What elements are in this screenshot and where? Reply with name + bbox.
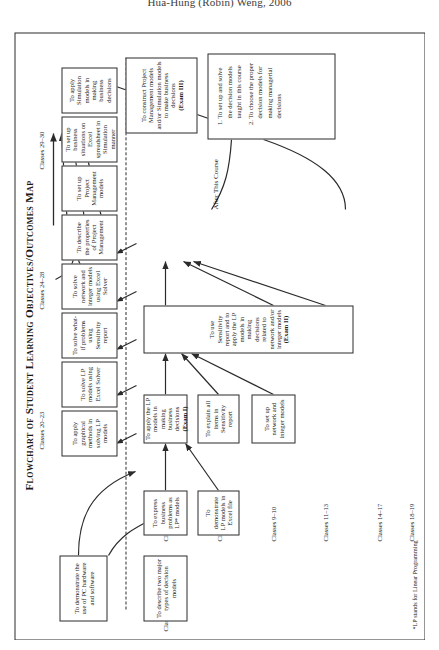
box-text: To apply the LP models in making busines… xyxy=(143,397,188,440)
box-construct-pm-simulation-exam-3: To construct Project Management models a… xyxy=(125,57,197,133)
box-solve-network-integer-solver: To solve network and integer models usin… xyxy=(61,263,117,309)
box-text: To apply Simulation models in making bus… xyxy=(67,70,112,110)
box-text: To solve LP models using Excel Solver xyxy=(78,364,100,404)
row-label-classes-20-23: Classes 20–23 xyxy=(37,411,44,449)
box-text: To set up Project Management models xyxy=(74,168,104,208)
row-label-classes-11-13: Classes 11–13 xyxy=(321,503,328,541)
row-label-classes-14-17: Classes 14–17 xyxy=(375,503,382,541)
flowchart-canvas: Flowchart of Student Learning Objectives… xyxy=(15,33,424,639)
box-text: To solve network and integer models usin… xyxy=(70,266,107,306)
box-apply-lp-exam-1: To apply the LP models in making busines… xyxy=(143,394,187,443)
box-describe-two-models: To describe two major types of decision … xyxy=(143,555,187,621)
box-text: To describe two major types of decision … xyxy=(154,558,176,618)
outcomes-list: To set up and solve the decision models … xyxy=(214,62,283,132)
box-setup-network-integer: To set up network and integer models xyxy=(251,394,295,443)
box-solve-what-if-problems: To solve what-if problems using Sensitiv… xyxy=(61,312,117,358)
box-text: To demonstrate LP models in Excel file xyxy=(203,493,233,532)
box-express-lp-models: To express business problems as LP* mode… xyxy=(143,490,187,535)
box-explain-sensitivity-report: To explain all items in Sensitivity repo… xyxy=(197,394,239,443)
box-text: To express business problems as LP* mode… xyxy=(150,493,180,532)
box-solve-lp-excel-solver: To solve LP models using Excel Solver xyxy=(61,361,117,407)
box-text: To solve what-if problems using Sensitiv… xyxy=(70,315,107,355)
box-text: To describe the properties of Project Ma… xyxy=(74,217,104,257)
section-divider xyxy=(125,57,126,609)
rotated-page-wrapper: Flowchart of Student Learning Objectives… xyxy=(14,32,425,640)
page-title: Flowchart of Student Learning Objectives… xyxy=(22,32,34,639)
flowchart-sheet: Flowchart of Student Learning Objectives… xyxy=(14,32,425,640)
box-use-sensitivity-exam-2: To use Sensitivity report and to apply t… xyxy=(143,305,353,353)
box-text: To set up network and integer models xyxy=(262,397,284,440)
box-apply-simulation-models: To apply Simulation models in making bus… xyxy=(61,67,117,113)
outcome-item: To choose the proper decision models for… xyxy=(245,62,283,118)
row-label-classes-24-28: Classes 24–28 xyxy=(37,271,44,309)
outcome-item: To set up and solve the decision models … xyxy=(214,62,243,118)
box-text: To apply graphical methods in solving LP… xyxy=(70,413,107,453)
box-text: To construct Project Management models a… xyxy=(139,60,184,130)
row-label-classes-18-19: Classes 18–19 xyxy=(407,503,414,541)
box-setup-pm-models: To set up Project Management models xyxy=(61,165,117,211)
row-label-classes-29-30: Classes 29–30 xyxy=(37,131,44,169)
box-apply-graphical-methods: To apply graphical methods in solving LP… xyxy=(61,410,117,456)
box-demonstrate-lp-excel: To demonstrate LP models in Excel file xyxy=(197,490,239,535)
page-root: Hua-Hung (Robin) Weng, 2006 Flowchart of… xyxy=(0,0,439,650)
box-describe-project-management: To describe the properties of Project Ma… xyxy=(61,214,117,260)
row-label-classes-9-10: Classes 9–10 xyxy=(269,506,276,541)
box-text: To set up business situations on Excel s… xyxy=(63,119,115,159)
outcomes-box: To set up and solve the decision models … xyxy=(207,53,335,139)
box-text: To explain all items in Sensitivity repo… xyxy=(203,397,233,440)
box-text: To demonstrate the use of PC hardware an… xyxy=(72,558,94,618)
footnote-lp-definition: *LP stands for Linear Programming xyxy=(410,540,417,629)
page-header-credit: Hua-Hung (Robin) Weng, 2006 xyxy=(0,0,439,10)
after-this-course-label: After This Course xyxy=(211,159,219,209)
box-text: To use Sensitivity report and to apply t… xyxy=(207,308,289,350)
box-setup-business-simulation: To set up business situations on Excel s… xyxy=(61,116,117,162)
box-demonstrate-pc-use: To demonstrate the use of PC hardware an… xyxy=(59,555,107,621)
